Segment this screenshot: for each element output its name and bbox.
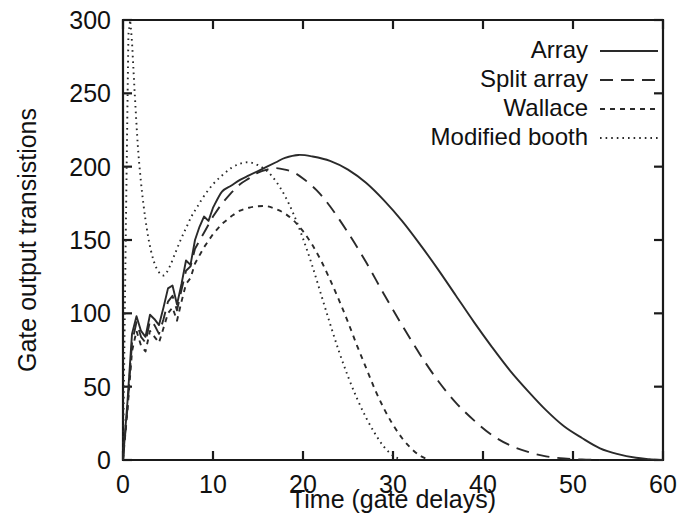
y-tick-label: 0 xyxy=(97,446,111,474)
legend-label: Split array xyxy=(480,65,588,92)
x-tick-label: 50 xyxy=(559,470,587,498)
y-tick-label: 100 xyxy=(69,299,111,327)
legend-label: Wallace xyxy=(504,94,588,121)
y-tick-label: 300 xyxy=(69,6,111,34)
series-line xyxy=(123,155,663,460)
x-axis-title: Time (gate delays) xyxy=(290,485,496,513)
legend-label: Array xyxy=(531,36,588,63)
y-tick-label: 150 xyxy=(69,226,111,254)
y-tick-label: 50 xyxy=(83,373,111,401)
x-tick-label: 60 xyxy=(649,470,677,498)
x-tick-label: 0 xyxy=(116,470,130,498)
series-line xyxy=(123,206,429,460)
series-line xyxy=(123,168,600,460)
legend-label: Modified booth xyxy=(431,123,588,150)
y-tick-label: 250 xyxy=(69,79,111,107)
y-tick-label: 200 xyxy=(69,153,111,181)
line-chart: 0102030405060 050100150200250300 Time (g… xyxy=(0,0,686,519)
x-tick-label: 10 xyxy=(199,470,227,498)
chart-legend: ArraySplit arrayWallaceModified booth xyxy=(431,36,658,150)
series-line xyxy=(123,20,402,460)
y-axis-title: Gate output transistions xyxy=(13,108,41,372)
y-axis-tick-labels: 050100150200250300 xyxy=(69,6,111,474)
chart-figure: 0102030405060 050100150200250300 Time (g… xyxy=(0,0,686,519)
